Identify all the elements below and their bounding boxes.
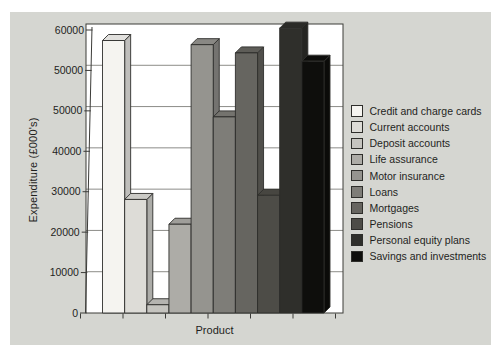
- legend-item: Mortgages: [351, 200, 486, 216]
- legend-label: Personal equity plans: [370, 234, 470, 246]
- bar-personal-equity-plans-front: [280, 28, 302, 313]
- y-tick-label: 50000: [54, 64, 83, 76]
- legend-item: Pensions: [351, 216, 486, 232]
- bar-loans-front: [213, 117, 235, 313]
- legend-item: Savings and investments: [351, 248, 486, 264]
- bar-deposit-accounts-front: [147, 305, 169, 313]
- y-tick-label: 10000: [50, 266, 79, 278]
- y-tick-label: 30000: [51, 185, 80, 197]
- legend-swatch-personal-equity-plans: [351, 234, 363, 246]
- x-axis-title: Product: [86, 324, 343, 336]
- chart-image: 600005000050000400003000020000100000 Exp…: [0, 0, 491, 355]
- bar-savings-and-investments: [302, 55, 330, 313]
- bar-credit-and-charge-cards-front: [103, 41, 125, 313]
- legend-label: Mortgages: [370, 202, 420, 214]
- bar-current-accounts-side: [147, 193, 153, 313]
- legend-swatch-life-assurance: [351, 154, 363, 166]
- legend-item: Motor insurance: [351, 168, 486, 184]
- legend-swatch-savings-and-investments: [351, 251, 363, 263]
- bar-current-accounts-front: [125, 199, 147, 313]
- legend-label: Credit and charge cards: [370, 105, 482, 117]
- legend-label: Life assurance: [370, 153, 438, 165]
- legend: Credit and charge cardsCurrent accountsD…: [351, 103, 486, 264]
- legend-label: Motor insurance: [370, 170, 445, 182]
- legend-label: Loans: [370, 186, 399, 198]
- legend-swatch-credit-and-charge-cards: [351, 105, 363, 117]
- legend-item: Life assurance: [351, 151, 486, 167]
- bar-life-assurance-front: [169, 224, 191, 313]
- legend-label: Current accounts: [370, 121, 450, 133]
- legend-swatch-motor-insurance: [351, 170, 363, 182]
- bar-mortgages-front: [235, 53, 257, 313]
- legend-label: Savings and investments: [370, 250, 487, 262]
- legend-item: Deposit accounts: [351, 135, 486, 151]
- legend-item: Current accounts: [351, 119, 486, 135]
- legend-swatch-pensions: [351, 218, 363, 230]
- legend-swatch-loans: [351, 186, 363, 198]
- bar-savings-and-investments-front: [302, 61, 324, 313]
- legend-item: Personal equity plans: [351, 232, 486, 248]
- legend-swatch-mortgages: [351, 202, 363, 214]
- legend-item: Credit and charge cards: [351, 103, 486, 119]
- y-tick-label: 50000: [53, 104, 82, 116]
- y-axis-title: Expenditure (£000's): [27, 117, 39, 222]
- bar-savings-and-investments-side: [324, 55, 330, 313]
- legend-item: Loans: [351, 184, 486, 200]
- legend-swatch-current-accounts: [351, 121, 363, 133]
- legend-label: Deposit accounts: [370, 137, 451, 149]
- y-tick-label: 20000: [51, 226, 80, 238]
- legend-swatch-deposit-accounts: [351, 138, 363, 150]
- bar-pensions-front: [258, 195, 280, 313]
- legend-label: Pensions: [370, 218, 413, 230]
- bar-motor-insurance-front: [191, 45, 213, 313]
- y-tick-label: 0: [72, 307, 78, 319]
- y-tick-label: 40000: [52, 145, 81, 157]
- y-tick-label: 60000: [55, 24, 84, 36]
- bar-current-accounts: [125, 193, 153, 313]
